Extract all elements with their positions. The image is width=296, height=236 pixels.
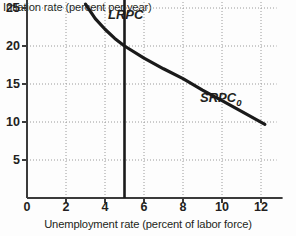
x-axis-tick-label: 10 bbox=[215, 200, 229, 214]
y-axis-tick-label: 15 bbox=[0, 77, 20, 91]
x-axis-tick-label: 0 bbox=[24, 200, 31, 214]
x-axis-tick-label: 4 bbox=[102, 200, 109, 214]
x-axis-tick-label: 8 bbox=[180, 200, 187, 214]
y-axis-tick-label: 20 bbox=[0, 39, 20, 53]
y-axis-tick-label: 10 bbox=[0, 115, 20, 129]
plot-area bbox=[0, 0, 296, 236]
y-axis-tick-label: 5 bbox=[0, 153, 20, 167]
srpc-curve bbox=[86, 4, 265, 124]
x-axis-tick-label: 2 bbox=[63, 200, 70, 214]
x-axis-tick-label: 12 bbox=[254, 200, 268, 214]
x-axis-tick-label: 6 bbox=[141, 200, 148, 214]
y-axis-tick-label: 25 bbox=[0, 1, 20, 15]
phillips-curve-chart: Inflation rate (percent per year) Unempl… bbox=[0, 0, 296, 236]
